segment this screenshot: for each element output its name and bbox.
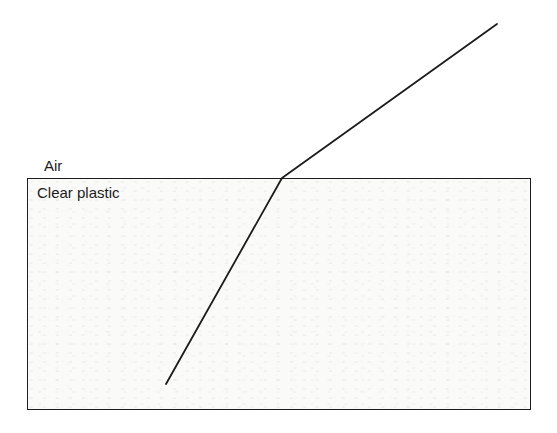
refraction-diagram: Air Clear plastic (0, 0, 557, 433)
air-label: Air (44, 158, 62, 173)
clear-plastic-label: Clear plastic (37, 185, 120, 200)
clear-plastic-block: Clear plastic (27, 178, 531, 410)
